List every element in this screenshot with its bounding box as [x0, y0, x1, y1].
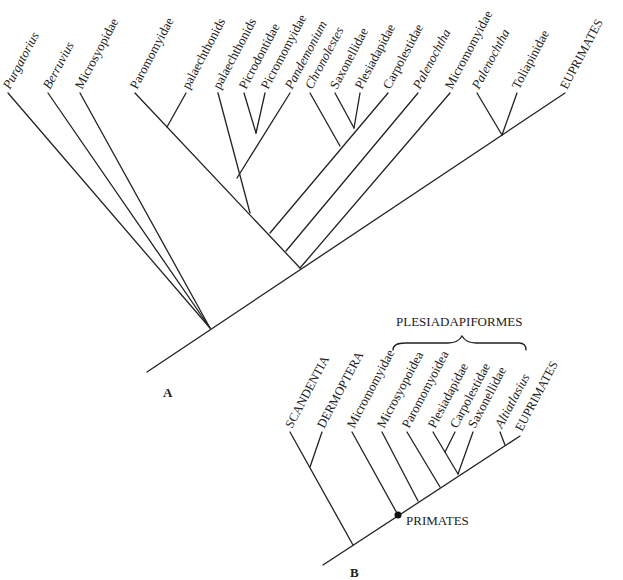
cladogram-a — [8, 93, 565, 372]
panel-label-b: B — [350, 565, 359, 580]
taxon-label: Toliapinidae — [508, 27, 552, 91]
cladogram-b — [290, 432, 520, 565]
branch-toliapinidae — [502, 93, 517, 135]
taxa-labels-b: SCANDENTIA DERMOPTERA Micromomyidae Micr… — [282, 347, 561, 434]
panel-label-a: A — [163, 385, 173, 400]
branch-picrodontidae — [244, 93, 256, 133]
plesiadapiformes-brace — [393, 336, 526, 350]
branch-saxonellidae — [335, 93, 354, 128]
branch-paromomyoidea — [407, 432, 440, 487]
branch-palaechthonids-1 — [167, 93, 186, 127]
taxon-label: Paromomyidae — [126, 15, 176, 92]
phylogeny-figure: Purgatorius Berruvius Microsyopidae Paro… — [0, 0, 623, 580]
taxon-label: EUPRIMATES — [557, 17, 606, 92]
branch-palenochtha — [286, 93, 418, 251]
branch-scandentia — [290, 432, 353, 545]
branch-purgatorius — [8, 93, 210, 328]
branch-microsyopidae — [80, 93, 210, 328]
branch-dermoptera — [310, 432, 322, 467]
branch-micromomyidae — [300, 93, 450, 268]
branch-carpolestidae-b — [445, 432, 455, 452]
group-label: PLESIADAPIFORMES — [396, 314, 522, 329]
branch-palaechthonids-2 — [218, 93, 250, 213]
branch-berruvius — [48, 93, 210, 328]
taxon-label: Microsyopidae — [71, 15, 121, 91]
node-label-primates: PRIMATES — [406, 513, 469, 528]
taxon-label: Purgatorius — [0, 29, 42, 92]
branch-micromomyidae-b — [352, 432, 398, 515]
branch-altiatlasius — [500, 432, 505, 445]
primates-node-dot — [395, 512, 402, 519]
branch-plesiadapidae — [354, 93, 360, 128]
branch-paromomyidae — [135, 93, 300, 268]
branch-plesiadapidae-b — [433, 432, 458, 474]
branch-pandemonium — [237, 93, 290, 178]
branch-chronolestes — [310, 93, 340, 146]
branch-palenochtha-2 — [477, 93, 502, 135]
taxa-labels-a: Purgatorius Berruvius Microsyopidae Paro… — [0, 8, 606, 93]
branch-carpolestidae — [270, 93, 388, 233]
branch-picromomyidae — [256, 93, 265, 133]
